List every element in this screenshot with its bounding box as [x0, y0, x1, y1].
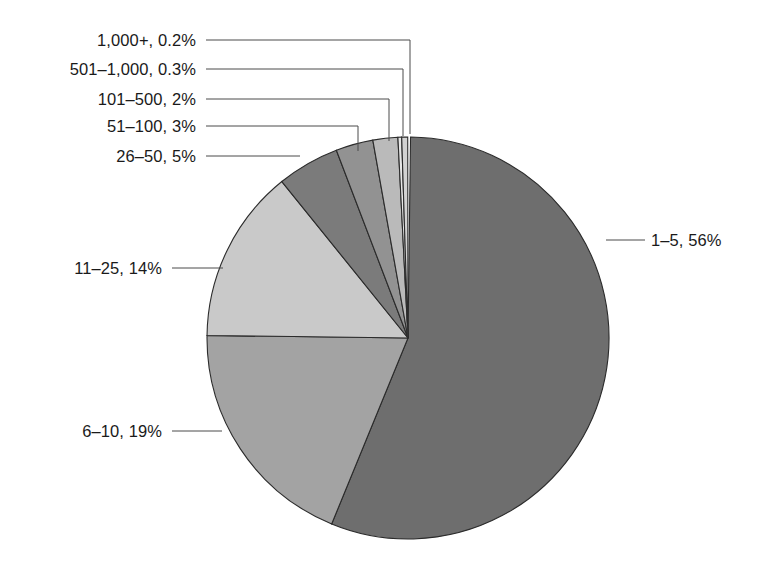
pie-label-1-5: 1–5, 56% — [651, 231, 722, 249]
leader-line-51-100 — [206, 126, 358, 151]
pie-label-6-10: 6–10, 19% — [82, 422, 162, 440]
pie-slices-group — [207, 137, 609, 539]
pie-label-101-500: 101–500, 2% — [98, 90, 197, 108]
pie-chart-figure: 1–5, 56%6–10, 19%11–25, 14%26–50, 5%51–1… — [0, 0, 761, 566]
pie-label-26-50: 26–50, 5% — [116, 147, 196, 165]
pie-label-501-1000: 501–1,000, 0.3% — [70, 60, 197, 78]
pie-chart-canvas: 1–5, 56%6–10, 19%11–25, 14%26–50, 5%51–1… — [0, 0, 761, 566]
leader-line-101-500 — [206, 99, 389, 141]
pie-label-11-25: 11–25, 14% — [74, 259, 162, 277]
leader-line-1000plus — [206, 40, 410, 134]
pie-label-1000plus: 1,000+, 0.2% — [97, 31, 196, 49]
pie-label-51-100: 51–100, 3% — [107, 117, 196, 135]
